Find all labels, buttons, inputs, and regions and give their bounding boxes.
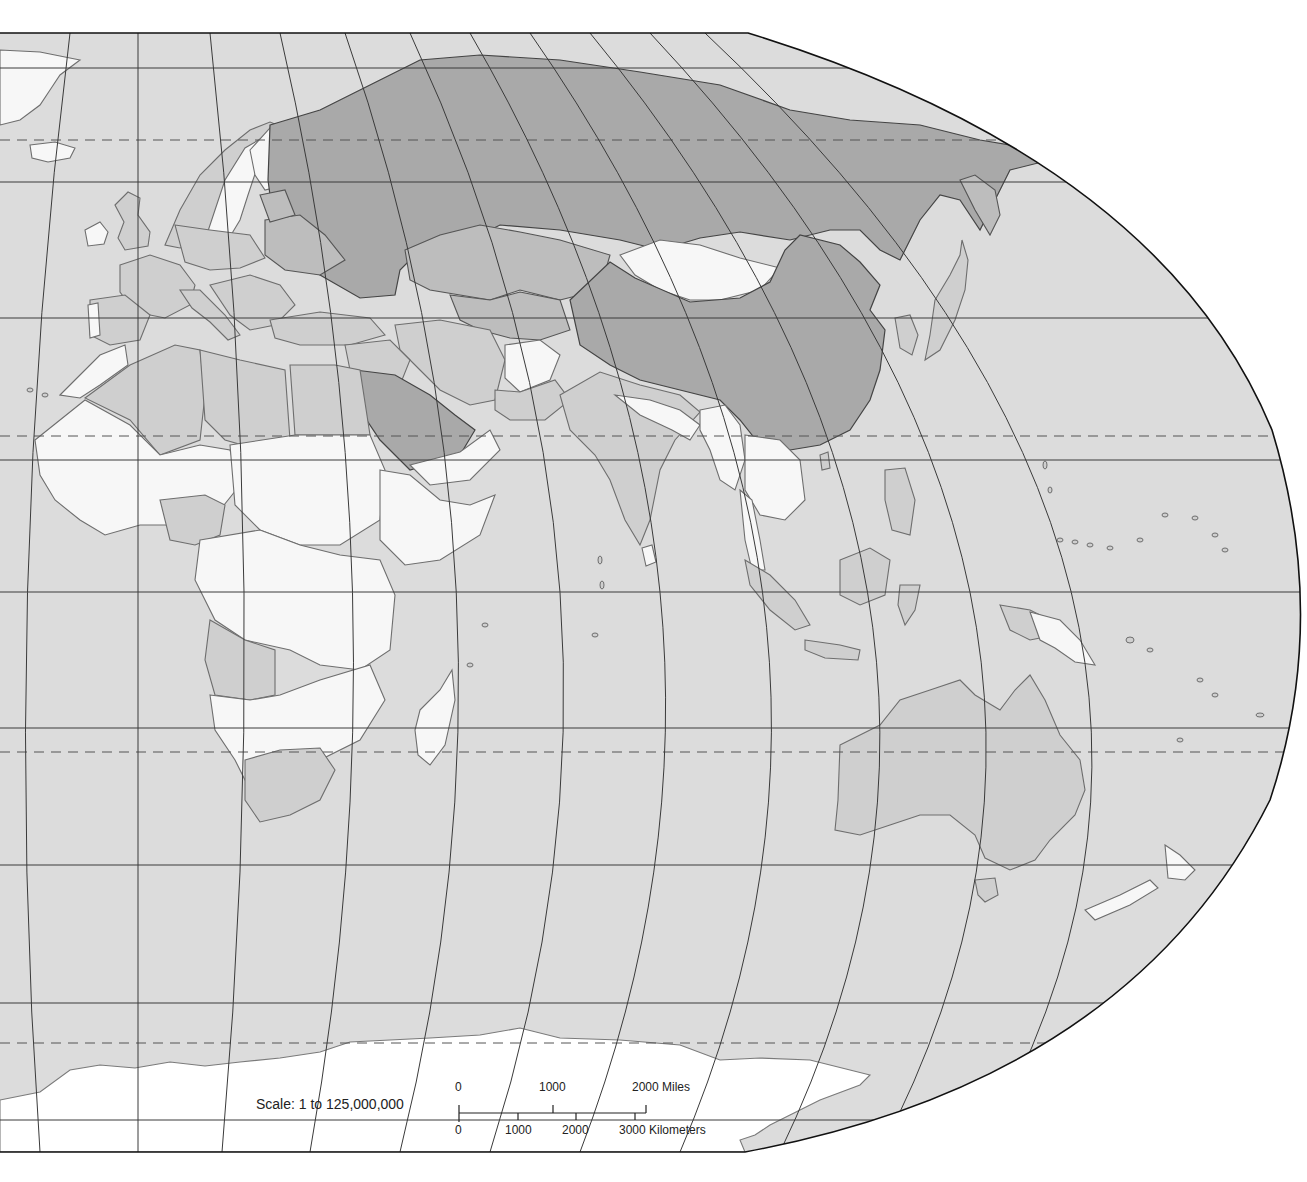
scale-km-tick-0: 0 <box>455 1123 462 1137</box>
scale-ratio-label: Scale: 1 to 125,000,000 <box>256 1096 404 1112</box>
taiwan <box>820 452 830 470</box>
scale-km-tick-2000: 2000 <box>562 1123 589 1137</box>
scale-miles-tick-2000: 2000 Miles <box>632 1080 690 1094</box>
world-map <box>0 0 1307 1182</box>
scale-km-tick-1000: 1000 <box>505 1123 532 1137</box>
egypt <box>290 365 370 435</box>
scale-km-tick-3000: 3000 Kilometers <box>619 1123 706 1137</box>
scale-miles-tick-0: 0 <box>455 1080 462 1094</box>
portugal <box>88 303 100 338</box>
scale-miles-tick-1000: 1000 <box>539 1080 566 1094</box>
